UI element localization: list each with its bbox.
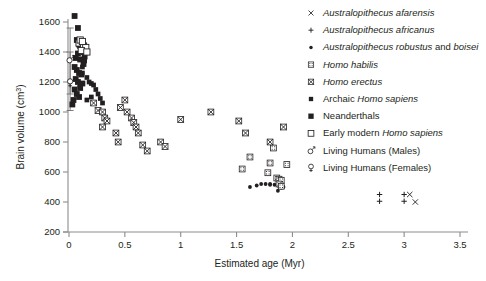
marker-filled-square [78,72,84,78]
marker-dotted-square-dot [269,171,270,172]
legend-label-text: Living Humans (Males) [323,145,420,156]
marker-venus-cross [309,169,312,172]
marker-plus [377,199,382,204]
marker-dotted-square-frame [265,170,271,176]
data-point [144,148,150,154]
y-axis-title-main: Brain volume (cm [15,92,26,170]
data-point [75,25,81,31]
data-point [377,192,382,197]
legend-label-text: Homo habilis [323,59,378,70]
marker-filled-square [81,61,87,67]
x-tick-label: 1.5 [230,239,243,250]
x-tick-label: 2.5 [342,239,355,250]
marker-small-filled-square [89,95,94,100]
marker-dotted-square-dot [312,65,313,66]
marker-dotted-square-dot [285,165,286,166]
data-point [271,145,277,151]
marker-x-cross [413,199,418,204]
y-tick-label: 400 [44,196,60,207]
legend-label-text: Australopithecus africanus [322,24,435,35]
data-point [122,97,128,103]
data-point [133,124,139,130]
data-point [178,117,184,123]
marker-dotted-square-frame [308,62,313,67]
legend-label: Homo habilis [323,59,378,70]
x-axis-title: Estimated age (Myr) [214,258,304,269]
legend-marker [308,79,313,84]
legend-label: Archaic Homo sapiens [323,93,418,104]
marker-dotted-square-dot [280,185,281,186]
legend-label-text: Australopithecus afarensis [322,7,435,18]
x-tick-label: 2 [290,239,295,250]
marker-dotted-square-dot [266,174,267,175]
legend-label-italic: Homo sapiens [382,127,443,138]
marker-small-filled-square [100,101,105,106]
marker-dotted-square-dot [269,174,270,175]
legend-marker [309,97,313,101]
data-point [85,75,90,80]
legend-label-italic2: boisei [453,41,479,52]
data-point [77,85,83,91]
marker-mars-circle [308,149,313,154]
y-tick-label: 1000 [39,106,60,117]
marker-venus-cross [68,84,72,87]
marker-filled-square [69,102,75,108]
marker-filled-square [77,85,83,91]
marker-dotted-square-dot [274,149,275,150]
marker-dot [248,185,252,189]
marker-plus [401,192,406,197]
chart-root: 200400600800100012001400160000.511.522.5… [0,0,486,281]
marker-dotted-square-frame [271,145,277,151]
y-tick-label: 800 [44,136,60,147]
data-point [248,185,252,189]
legend-marker [309,46,312,49]
marker-filled-square [308,114,313,119]
marker-dotted-square-dot [248,158,249,159]
legend-label: Neanderthals [323,110,380,121]
marker-dotted-square-dot [268,161,269,162]
x-tick-label: 0 [66,239,71,250]
legend-label: Australopithecus robustus and boisei [322,41,479,52]
marker-small-filled-square [309,97,313,101]
marker-small-filled-square [85,98,90,103]
legend-marker [308,131,314,137]
data-point [84,49,90,55]
legend-marker [309,11,314,16]
marker-dotted-square-frame [267,160,273,166]
legend-label-text: Living Humans (Females) [323,162,431,173]
data-point [91,100,97,106]
data-point [208,109,214,115]
legend-marker [308,62,313,67]
data-point [135,130,141,136]
legend-label-text: Homo erectus [323,76,382,87]
marker-dot [309,46,312,49]
data-point [413,199,418,204]
legend-marker [309,164,314,172]
marker-dotted-square-dot [288,165,289,166]
marker-dotted-square-dot [280,179,281,180]
data-point [81,61,87,67]
marker-filled-square [75,25,81,31]
marker-dot [264,182,268,186]
marker-dotted-square-dot [240,167,241,168]
data-point [124,109,130,115]
data-point [264,182,268,186]
marker-open-square [308,131,314,137]
data-point [96,92,101,97]
marker-plus [309,28,314,33]
data-point [85,98,90,103]
data-point [98,96,103,101]
scatter-plot: 200400600800100012001400160000.511.522.5… [0,0,486,281]
legend-label: Australopithecus africanus [322,24,435,35]
marker-dotted-square-dot [266,171,267,172]
data-point [247,154,253,160]
marker-dotted-square-dot [272,149,273,150]
data-point [284,162,290,168]
data-point [377,199,382,204]
data-point [236,118,242,124]
marker-dotted-square-dot [282,187,283,188]
marker-small-filled-square [96,92,101,97]
marker-dotted-square-frame [278,183,284,189]
marker-x-cross [407,192,412,197]
data-point [72,13,78,19]
